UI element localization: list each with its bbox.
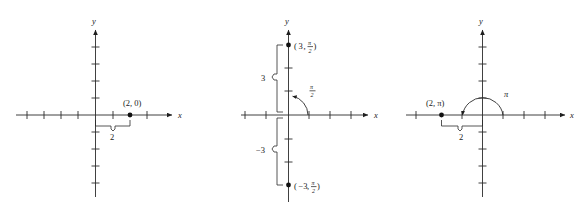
panel-b-point-upper [286, 43, 291, 48]
panel-c-brace-label: 2 [459, 132, 463, 142]
angle-numerator: π [310, 84, 314, 90]
paren-open: ( [294, 181, 297, 191]
panel-a: x y (2, 0) 2 [16, 16, 182, 197]
panel-b-angle-arc [293, 96, 308, 115]
figure-svg: x y (2, 0) 2 [0, 0, 584, 209]
theta-denominator: 2 [309, 48, 312, 54]
panel-b-brace-lower [272, 118, 283, 185]
panel-a-point [128, 113, 133, 118]
angle-denominator: 2 [311, 92, 314, 98]
comma: , [304, 41, 306, 51]
theta-denominator: 2 [312, 188, 315, 194]
panel-a-brace [96, 120, 131, 131]
panel-a-x-axis-label: x [177, 110, 182, 120]
panel-c-y-axis-label: y [478, 16, 483, 26]
comma: , [307, 181, 309, 191]
paren-close: ) [314, 41, 317, 51]
panel-a-y-axis-label: y [91, 16, 96, 26]
panel-c-point [439, 113, 444, 118]
panel-b-point-lower-label: ( −3 , π 2 ) [294, 180, 320, 194]
panel-a-point-label: (2, 0) [123, 98, 142, 108]
panel-b-brace-label-lower: −3 [256, 145, 265, 155]
panel-b: x y ( 3 , π 2 ) ( −3 , π 2 ) [241, 16, 378, 202]
radius-value: 3 [299, 41, 303, 51]
theta-numerator: π [308, 40, 312, 46]
panel-b-brace-upper [272, 45, 283, 112]
panel-c-point-label: (2, π) [426, 98, 445, 108]
panel-c: x y (2, π) 2 π [406, 16, 574, 197]
panel-b-point-lower [286, 183, 291, 188]
panel-b-point-upper-label: ( 3 , π 2 ) [294, 40, 317, 54]
panel-c-brace [442, 120, 483, 131]
paren-close: ) [317, 181, 320, 191]
panel-b-brace-label-upper: 3 [261, 73, 265, 83]
paren-open: ( [294, 41, 297, 51]
theta-numerator: π [312, 180, 316, 186]
panel-b-x-axis-label: x [373, 110, 378, 120]
panel-a-brace-label: 2 [110, 132, 114, 142]
panel-c-x-axis-label: x [569, 110, 574, 120]
panel-c-angle-label: π [504, 89, 509, 99]
panel-b-y-axis-label: y [284, 16, 289, 26]
panel-b-angle-label: π 2 [310, 84, 316, 98]
polar-coordinates-figure: x y (2, 0) 2 [0, 0, 584, 209]
